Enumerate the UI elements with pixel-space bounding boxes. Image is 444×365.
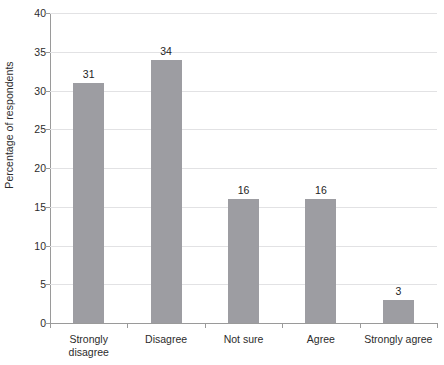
y-axis-tick-label: 15: [6, 202, 46, 213]
x-axis-category-label-line: Disagree: [145, 333, 187, 345]
bar-value-label: 16: [224, 185, 264, 196]
axis-baseline: [50, 323, 437, 324]
x-axis-category-label: Agree: [282, 333, 359, 346]
bar-value-label: 31: [69, 69, 109, 80]
y-axis-tick-label: 5: [6, 279, 46, 290]
x-axis-category-label-line: Strongly: [69, 333, 108, 345]
y-axis-tick-label: 35: [6, 47, 46, 58]
x-axis-category-label-line: disagree: [50, 346, 127, 359]
gridline: [50, 168, 437, 169]
gridline: [50, 13, 437, 14]
plot-area: [50, 13, 437, 323]
y-axis-tick-label: 20: [6, 163, 46, 174]
x-axis-category-label: Disagree: [127, 333, 204, 346]
y-axis-tick-label: 10: [6, 240, 46, 251]
bar-value-label: 16: [301, 185, 341, 196]
x-axis-category-label-line: Agree: [307, 333, 335, 345]
bar: [73, 83, 104, 323]
x-axis-category-label: Stronglydisagree: [50, 333, 127, 359]
y-axis-tick-label: 40: [6, 8, 46, 19]
x-axis-tick-mark: [50, 323, 51, 328]
bar: [305, 199, 336, 323]
gridline: [50, 91, 437, 92]
bar-value-label: 3: [378, 286, 418, 297]
x-axis-tick-mark: [127, 323, 128, 328]
x-axis-tick-mark: [437, 323, 438, 328]
x-axis-category-label-line: Not sure: [224, 333, 264, 345]
bar-chart-figure: Percentage of respondents 05101520253035…: [0, 0, 444, 365]
x-axis-category-label-line: Strongly agree: [364, 333, 432, 345]
bar: [383, 300, 414, 323]
x-axis-tick-mark: [360, 323, 361, 328]
x-axis-tick-mark: [282, 323, 283, 328]
bar-value-label: 34: [146, 46, 186, 57]
y-axis-tick-label: 30: [6, 85, 46, 96]
x-axis-category-label: Strongly agree: [360, 333, 437, 346]
x-axis-category-label: Not sure: [205, 333, 282, 346]
gridline: [50, 52, 437, 53]
x-axis-tick-mark: [205, 323, 206, 328]
bar: [151, 60, 182, 324]
y-axis-tick-label: 25: [6, 124, 46, 135]
y-axis-tick-label: 0: [6, 318, 46, 329]
gridline: [50, 129, 437, 130]
bar: [228, 199, 259, 323]
